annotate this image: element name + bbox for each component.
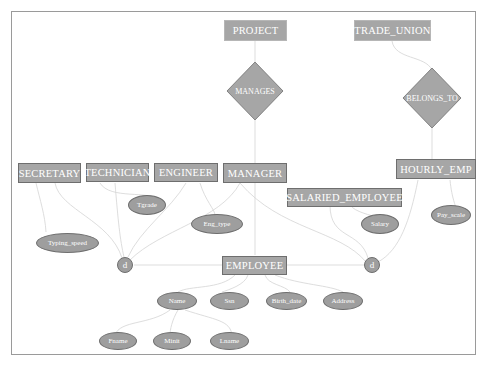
relationship-manages-label: MANAGES bbox=[235, 87, 275, 96]
attribute-label: Lname bbox=[220, 337, 239, 345]
attribute-birth-date[interactable]: Birth_date bbox=[266, 292, 307, 310]
attribute-label: Salary bbox=[371, 220, 389, 228]
attribute-label: Birth_date bbox=[272, 297, 302, 305]
attribute-ssn[interactable]: Ssn bbox=[210, 292, 249, 310]
attribute-label: Name bbox=[169, 297, 186, 305]
attribute-tgrade[interactable]: Tgrade bbox=[128, 195, 166, 215]
attribute-lname[interactable]: Lname bbox=[210, 332, 249, 350]
attribute-fname[interactable]: Fname bbox=[99, 332, 137, 350]
attribute-eng-type[interactable]: Eng_type bbox=[191, 214, 243, 234]
attribute-label: Minit bbox=[164, 337, 180, 345]
specialization-label: d bbox=[123, 260, 128, 270]
attribute-minit[interactable]: Minit bbox=[153, 332, 191, 350]
attribute-address[interactable]: Address bbox=[323, 292, 363, 310]
specialization-label: d bbox=[370, 260, 375, 270]
attribute-typing-speed[interactable]: Typing_speed bbox=[36, 233, 99, 253]
specialization-disjoint-left[interactable]: d bbox=[117, 257, 133, 273]
specialization-disjoint-right[interactable]: d bbox=[364, 257, 380, 273]
attribute-label: Tgrade bbox=[137, 201, 157, 209]
attribute-name[interactable]: Name bbox=[157, 292, 197, 310]
attribute-label: Pay_scale bbox=[437, 211, 465, 219]
attribute-label: Ssn bbox=[224, 297, 234, 305]
er-diagram-canvas: PROJECT TRADE_UNION SECRETARY TECHNICIAN… bbox=[0, 0, 498, 367]
attribute-label: Fname bbox=[108, 337, 127, 345]
relationship-shapes bbox=[0, 0, 498, 367]
attribute-salary[interactable]: Salary bbox=[361, 214, 399, 234]
attribute-label: Eng_type bbox=[204, 220, 231, 228]
attribute-label: Address bbox=[332, 297, 355, 305]
attribute-label: Typing_speed bbox=[48, 239, 87, 247]
attribute-pay-scale[interactable]: Pay_scale bbox=[431, 205, 471, 225]
relationship-belongs-to-label: BELONGS_TO bbox=[406, 94, 457, 103]
